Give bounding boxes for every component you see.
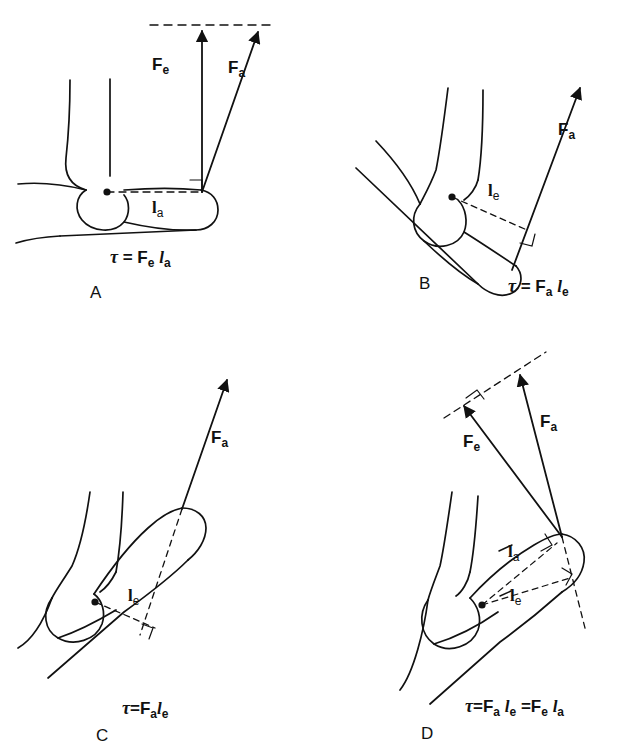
panel-letter-c: C <box>96 726 108 746</box>
vector-fa-d <box>520 375 562 537</box>
force-sub-e-d: e <box>474 440 481 454</box>
forearm-cap-c <box>182 508 206 560</box>
figure-drawing <box>0 0 633 755</box>
equation-c: τ=Fale <box>122 698 168 721</box>
force-sub-e-a: e <box>163 63 170 77</box>
humerus-right-shaft-b <box>464 180 478 200</box>
force-sub-a-c: a <box>222 436 229 450</box>
moment-arm-label-le-d: le <box>510 586 521 608</box>
forearm-outline-a <box>60 190 218 236</box>
joint-center-a <box>103 188 110 195</box>
joint-center-c <box>91 598 98 605</box>
humerus-outline-a <box>66 80 86 190</box>
force-label-fa-b: Fa <box>558 120 575 142</box>
upper-arm-contour-b <box>376 141 420 204</box>
moment-arm-label-le-c: le <box>128 586 139 608</box>
condyle-a <box>77 190 128 230</box>
force-label-fa-d: Fa <box>540 412 557 434</box>
right-angle-marker-c <box>142 624 153 639</box>
forearm-bottom-c <box>48 560 188 678</box>
panel-b-drawing <box>356 88 580 295</box>
equation-a: τ = Fe la <box>110 247 171 270</box>
forearm-lower-line-c <box>58 610 116 638</box>
forearm-top-b <box>464 232 516 266</box>
equation-b: τ = Fa le <box>508 276 569 299</box>
vector-fa-b <box>512 88 580 270</box>
panel-letter-a: A <box>90 283 101 303</box>
forearm-top-c <box>94 508 182 594</box>
condyle-d <box>422 598 480 648</box>
humerus-outline-b <box>420 88 448 204</box>
moment-arm-label-la-a: la <box>152 198 163 220</box>
joint-center-d <box>478 601 485 608</box>
force-sub-a-d: a <box>551 420 558 434</box>
panel-d-drawing <box>400 352 586 704</box>
forearm-lower-b <box>424 241 478 284</box>
force-label-fe-d: Fe <box>463 432 480 454</box>
moment-arm-label-la-d: la <box>508 542 519 564</box>
force-sub-a-a: a <box>239 66 246 80</box>
vector-fa-a <box>202 32 258 192</box>
force-label-fa-c: Fa <box>211 428 228 450</box>
panel-letter-d: D <box>421 724 433 744</box>
panel-letter-b: B <box>419 274 430 294</box>
reference-line-d <box>444 352 546 418</box>
force-label-fa-a: Fa <box>228 58 245 80</box>
equation-d: τ=Fa le =Fe la <box>465 696 564 719</box>
humerus-shaft-d <box>470 496 478 572</box>
figure-elbow-torque: Fe Fa la τ = Fe la A Fa le τ = Fa le B F… <box>0 0 633 755</box>
force-sub-a-b: a <box>569 128 576 142</box>
humerus-inner-d <box>456 572 470 596</box>
moment-arm-le-line-d <box>482 578 570 605</box>
humerus-shaft-b <box>478 90 483 180</box>
forearm-top-a <box>124 189 201 191</box>
moment-arm-label-le-b: le <box>488 181 499 203</box>
condyle-b <box>414 200 466 246</box>
forearm-lower-a <box>124 222 196 230</box>
forearm-bottom-a <box>16 236 60 243</box>
joint-center-b <box>448 193 455 200</box>
humerus-outline-d <box>428 492 452 600</box>
force-label-fe-a: Fe <box>152 55 169 77</box>
humerus-outline-c <box>52 492 90 598</box>
panel-c-drawing <box>18 380 227 678</box>
upper-arm-contour-d <box>400 600 428 690</box>
forearm-lower-line-d <box>434 612 498 644</box>
